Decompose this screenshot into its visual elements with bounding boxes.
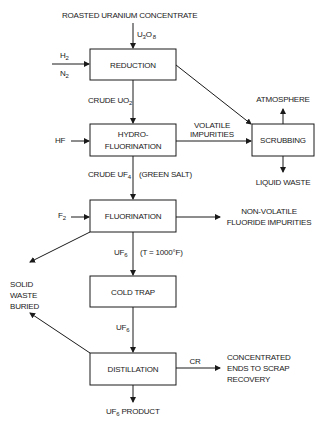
scrap-line2: ENDS TO SCRAP <box>227 364 289 373</box>
nonvolatile-label-line1: NON-VOLATILE <box>241 207 297 216</box>
h2-label: H2 <box>60 51 70 61</box>
uf6-cold-label: UF6 <box>116 323 130 333</box>
distillation-solid-waste-arrow <box>30 313 90 353</box>
fluorination-label: FLUORINATION <box>105 212 162 221</box>
volatile-label-line2: IMPURITIES <box>190 130 234 139</box>
scrap-line3: RECOVERY <box>227 375 271 384</box>
hydro-label-line2: FLUORINATION <box>105 142 162 151</box>
green-salt-label: (GREEN SALT) <box>139 170 193 179</box>
cr-label: CR <box>189 357 201 366</box>
nonvolatile-label-line2: FLUORIDE IMPURITIES <box>227 218 312 227</box>
crude-uf4-label: CRUDE UF4 <box>88 170 132 180</box>
f2-label: F2 <box>58 211 67 221</box>
atmosphere-label: ATMOSPHERE <box>256 95 309 104</box>
hydrofluorination-box <box>90 124 176 156</box>
liquid-waste-label: LIQUID WASTE <box>256 178 311 187</box>
u3o8-label: U3O8 <box>137 30 157 40</box>
volatile-label-line1: VOLATILE <box>194 121 230 130</box>
fluorination-solid-waste-arrow <box>30 232 90 262</box>
uf6-hot-label: UF6 <box>114 248 128 258</box>
crude-uo2-label: CRUDE UO2 <box>88 96 133 106</box>
process-flow-diagram: ROASTED URANIUM CONCENTRATE U3O8 H2 N2 R… <box>0 0 325 431</box>
scrubbing-label: SCRUBBING <box>260 136 306 145</box>
distillation-label: DISTILLATION <box>108 365 159 374</box>
cold-trap-label: COLD TRAP <box>111 288 155 297</box>
hydro-label-line1: HYDRO- <box>118 130 149 139</box>
product-label: UF6 PRODUCT <box>106 407 160 417</box>
solid-waste-line3: BURIED <box>10 302 39 311</box>
solid-waste-line1: SOLID <box>10 280 33 289</box>
temperature-label: (T = 1000°F) <box>140 248 183 257</box>
reduction-label: REDUCTION <box>110 61 156 70</box>
reduction-offgas-arrow <box>176 65 251 124</box>
scrap-line1: CONCENTRATED <box>227 353 291 362</box>
n2-label: N2 <box>60 69 70 79</box>
feed-label: ROASTED URANIUM CONCENTRATE <box>62 11 197 20</box>
solid-waste-line2: WASTE <box>10 291 37 300</box>
hf-label: HF <box>55 136 66 145</box>
